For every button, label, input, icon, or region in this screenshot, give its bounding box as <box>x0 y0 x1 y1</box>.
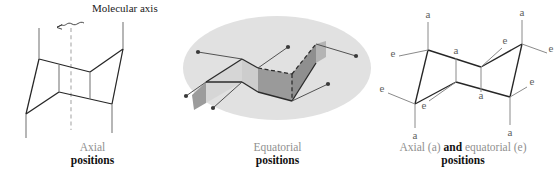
axial-chair-drawing <box>0 0 185 140</box>
label-equatorial-left: e <box>380 82 385 94</box>
axial-equatorial-chair-drawing: a a a a a a e e e e e e <box>372 0 554 140</box>
label-axial-top-right: a <box>520 6 525 18</box>
equatorial-chair-drawing <box>180 0 375 140</box>
molecular-axis-arrowhead <box>57 25 62 30</box>
label-axial-mid-left: a <box>454 44 459 56</box>
label-axial-bottom-left: a <box>413 129 418 140</box>
caption-both-pre: Axial (a) <box>399 141 443 153</box>
label-equatorial-lower-left: e <box>422 99 427 111</box>
both-bond-labels: a a a a a a e e e e e e <box>380 6 554 140</box>
label-equatorial-upper-mid: e <box>503 34 508 46</box>
label-equatorial-upper-left: e <box>391 47 396 59</box>
axial-ring-bonds <box>26 49 123 114</box>
label-equatorial-right: e <box>549 42 554 54</box>
label-axial-bottom-right: a <box>508 126 513 138</box>
caption-both-line1: Axial (a) and equatorial (e) <box>372 141 554 154</box>
caption-axial-line1: Axial <box>0 141 185 154</box>
caption-equatorial: Equatorial positions <box>180 141 375 167</box>
caption-equatorial-line2: positions <box>180 154 375 167</box>
both-equatorial-bonds <box>388 44 547 104</box>
caption-both-and: and <box>444 141 463 153</box>
panel-axial-positions: Molecular axis Axial positions <box>0 0 185 183</box>
label-axial-mid-right: a <box>479 89 484 101</box>
equatorial-ellipse-backdrop <box>183 16 371 120</box>
label-axial-top-left: a <box>426 8 431 20</box>
molecular-axis-label: Molecular axis <box>92 2 158 14</box>
both-ring-bonds <box>415 44 522 104</box>
cyclohexane-conformation-figure: Molecular axis Axial positions <box>0 0 554 183</box>
panel-axial-and-equatorial-positions: a a a a a a e e e e e e Axial (a) and eq… <box>372 0 554 183</box>
caption-axial-and-equatorial: Axial (a) and equatorial (e) positions <box>372 141 554 167</box>
caption-both-line2: positions <box>372 154 554 167</box>
caption-equatorial-line1: Equatorial <box>180 141 375 154</box>
axial-bonds-vertical <box>26 22 123 138</box>
label-equatorial-lower-right: e <box>530 75 535 87</box>
caption-axial-line2: positions <box>0 154 185 167</box>
panel-equatorial-positions: Equatorial positions <box>180 0 375 183</box>
caption-both-post: equatorial (e) <box>462 141 527 153</box>
caption-axial: Axial positions <box>0 141 185 167</box>
